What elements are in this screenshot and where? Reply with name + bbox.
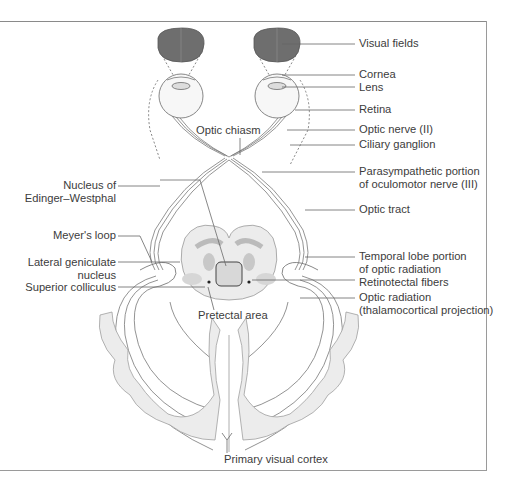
- label-superior-colliculus: Superior colliculus: [25, 281, 116, 294]
- label-optic-chiasm: Optic chiasm: [196, 124, 261, 137]
- label-optic-tract: Optic tract: [359, 203, 410, 216]
- right-eye-icon: [255, 74, 299, 118]
- label-edinger-line1: Nucleus of: [63, 179, 116, 192]
- left-visual-cortex-icon: [99, 312, 220, 440]
- label-temporal-lobe-line2: of optic radiation: [359, 263, 441, 276]
- label-optic-radiation-line1: Optic radiation: [359, 291, 431, 304]
- visual-pathway-illustration: [0, 0, 505, 492]
- pretectal-nucleus-icon: [216, 262, 242, 286]
- label-edinger-line2: Edinger–Westphal: [25, 192, 116, 205]
- label-pretectal-area: Pretectal area: [198, 309, 268, 322]
- label-optic-nerve: Optic nerve (II): [359, 123, 433, 136]
- label-parasympathetic-line1: Parasympathetic portion: [359, 165, 480, 178]
- label-ciliary-ganglion: Ciliary ganglion: [359, 138, 436, 151]
- label-cornea: Cornea: [359, 68, 396, 81]
- label-lgn-line1: Lateral geniculate: [28, 256, 116, 269]
- label-retinotectal-fibers: Retinotectal fibers: [359, 276, 449, 289]
- left-eye-icon: [159, 74, 203, 118]
- label-temporal-lobe-line1: Temporal lobe portion: [359, 250, 467, 263]
- label-optic-radiation-line2: (thalamocortical projection): [359, 304, 493, 317]
- right-visual-cortex-icon: [238, 312, 359, 440]
- label-lens: Lens: [359, 81, 383, 94]
- label-meyers-loop: Meyer's loop: [53, 229, 116, 242]
- label-retina: Retina: [359, 103, 391, 116]
- label-primary-visual-cortex: Primary visual cortex: [224, 453, 328, 466]
- label-visual-fields: Visual fields: [359, 37, 419, 50]
- label-parasympathetic-line2: of oculomotor nerve (III): [359, 178, 478, 191]
